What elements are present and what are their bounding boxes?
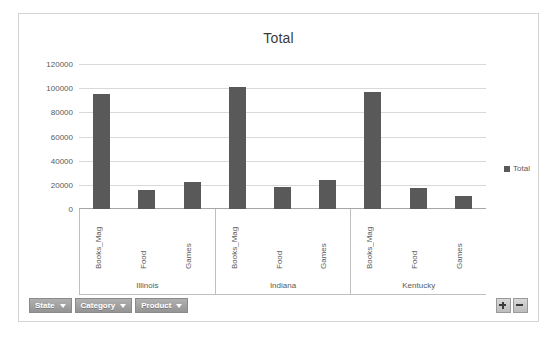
y-axis-tick-label: 80000 — [19, 108, 79, 117]
legend-label-total: Total — [513, 164, 530, 173]
group-axis-label: Indiana — [216, 281, 351, 294]
bar-group — [350, 64, 486, 209]
category-axis-label: Games — [184, 209, 201, 271]
group-axis-label: Illinois — [80, 281, 215, 294]
bar[interactable] — [138, 190, 155, 209]
pivot-chart-frame[interactable]: Total 120000100000800006000040000200000 … — [18, 13, 539, 322]
y-axis-tick-label: 60000 — [19, 132, 79, 141]
category-axis-label: Books_Mag — [365, 209, 382, 271]
field-button-product[interactable]: Product — [135, 298, 188, 313]
bar[interactable] — [93, 94, 110, 209]
category-axis-label: Food — [410, 209, 427, 271]
y-axis-tick-label: 120000 — [19, 60, 79, 69]
field-button-label: State — [35, 301, 55, 310]
bar-series-total — [79, 64, 486, 209]
bar[interactable] — [184, 182, 201, 209]
category-axis-label: Games — [319, 209, 336, 271]
category-axis-label: Books_Mag — [230, 209, 247, 271]
y-axis-tick-label: 20000 — [19, 180, 79, 189]
field-button-category[interactable]: Category — [75, 298, 133, 313]
field-button-state[interactable]: State — [29, 298, 72, 313]
minus-icon — [516, 304, 523, 306]
plus-icon-v — [502, 302, 504, 309]
y-axis-tick-label: 0 — [19, 205, 79, 214]
category-axis-group: Books_MagFoodGamesKentucky — [351, 209, 486, 294]
bar[interactable] — [364, 92, 381, 209]
bar[interactable] — [229, 87, 246, 209]
category-axis-label: Books_Mag — [94, 209, 111, 271]
category-axis-group: Books_MagFoodGamesIllinois — [79, 209, 216, 294]
bar[interactable] — [410, 188, 427, 209]
y-axis-tick-label: 100000 — [19, 84, 79, 93]
field-button-label: Product — [141, 301, 171, 310]
category-label-row: Books_MagFoodGames — [351, 209, 486, 281]
category-axis-label: Food — [275, 209, 292, 271]
expand-field-button[interactable] — [496, 298, 511, 313]
collapse-field-button[interactable] — [513, 298, 528, 313]
bar[interactable] — [274, 187, 291, 209]
bar[interactable] — [319, 180, 336, 209]
chevron-down-icon[interactable] — [60, 304, 66, 308]
category-axis-label: Games — [455, 209, 472, 271]
chevron-down-icon[interactable] — [120, 304, 126, 308]
bar[interactable] — [455, 196, 472, 209]
category-axis-group: Books_MagFoodGamesIndiana — [216, 209, 352, 294]
group-axis-label: Kentucky — [351, 281, 486, 294]
category-label-row: Books_MagFoodGames — [80, 209, 215, 281]
field-button-label: Category — [81, 301, 116, 310]
y-axis-tick-label: 40000 — [19, 156, 79, 165]
bar-group — [79, 64, 215, 209]
chevron-down-icon[interactable] — [176, 304, 182, 308]
legend-swatch-total — [504, 166, 510, 172]
bar-group — [215, 64, 351, 209]
pivot-field-buttons: StateCategoryProduct — [29, 298, 188, 313]
category-label-row: Books_MagFoodGames — [216, 209, 351, 281]
category-axis-label: Food — [139, 209, 156, 271]
category-axis[interactable]: Books_MagFoodGamesIllinoisBooks_MagFoodG… — [79, 209, 486, 295]
expand-collapse-buttons — [496, 298, 528, 313]
chart-legend[interactable]: Total — [504, 164, 530, 173]
